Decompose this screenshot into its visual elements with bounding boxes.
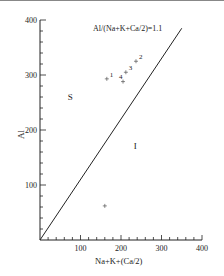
data-point (103, 204, 107, 208)
y-tick-label: 100 (25, 181, 37, 190)
point-label: 4 (119, 73, 123, 81)
point-label: 2 (139, 53, 143, 61)
data-point: 1 (105, 71, 114, 81)
data-point: 4 (119, 73, 125, 84)
region-label-s: S (68, 92, 73, 102)
x-tick-label: 400 (196, 244, 208, 253)
x-axis-label: Na+K+(Ca/2) (95, 256, 143, 266)
y-tick-label: 300 (25, 71, 37, 80)
axes (40, 20, 202, 240)
region-label-i: I (134, 141, 137, 151)
data-point: 2 (134, 53, 143, 63)
scatter-chart: 100200300400100200300400 1234 Al/(Na+K+C… (0, 0, 224, 276)
x-tick-label: 100 (75, 244, 87, 253)
x-tick-label: 300 (156, 244, 168, 253)
axis-ticks: 100200300400100200300400 (25, 16, 208, 253)
y-tick-label: 400 (25, 16, 37, 25)
boundary-line (40, 28, 182, 240)
y-tick-label: 200 (25, 126, 37, 135)
data-point: 3 (124, 64, 133, 74)
data-points: 1234 (103, 53, 143, 208)
boundary-line-label: Al/(Na+K+Ca/2)=1.1 (93, 24, 162, 33)
y-axis-label: Al (16, 130, 26, 139)
point-label: 3 (129, 64, 133, 72)
x-tick-label: 200 (115, 244, 127, 253)
point-label: 1 (110, 71, 114, 79)
